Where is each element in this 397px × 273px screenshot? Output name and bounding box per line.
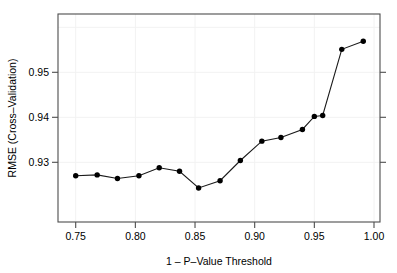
data-point	[157, 165, 162, 170]
data-point	[217, 178, 222, 183]
y-tick-label: 0.93	[29, 156, 50, 168]
x-axis-title: 1 – P–Value Threshold	[166, 255, 272, 267]
x-tick-label: 0.95	[304, 230, 325, 242]
data-point	[115, 176, 120, 181]
x-tick-label: 1.00	[364, 230, 385, 242]
y-axis-title: RMSE (Cross–Validation)	[6, 59, 18, 178]
data-point	[136, 173, 141, 178]
data-point	[278, 135, 283, 140]
data-point	[259, 138, 264, 143]
y-tick-label: 0.95	[29, 66, 50, 78]
y-tick-label: 0.94	[29, 111, 50, 123]
x-tick-label: 0.75	[65, 230, 86, 242]
data-point	[196, 185, 201, 190]
x-tick-label: 0.80	[125, 230, 146, 242]
data-point	[177, 169, 182, 174]
data-point	[238, 158, 243, 163]
data-point	[73, 173, 78, 178]
rmse-vs-pvalue-threshold-chart: 0.750.800.850.900.951.00 0.930.940.95 1 …	[0, 0, 397, 273]
data-point	[320, 113, 325, 118]
data-point	[94, 172, 99, 177]
data-point	[361, 39, 366, 44]
x-tick-label: 0.85	[185, 230, 206, 242]
data-point	[339, 47, 344, 52]
data-point	[300, 127, 305, 132]
x-tick-label: 0.90	[244, 230, 265, 242]
data-point	[312, 114, 317, 119]
plot-area: 0.750.800.850.900.951.00 0.930.940.95 1 …	[0, 0, 397, 273]
